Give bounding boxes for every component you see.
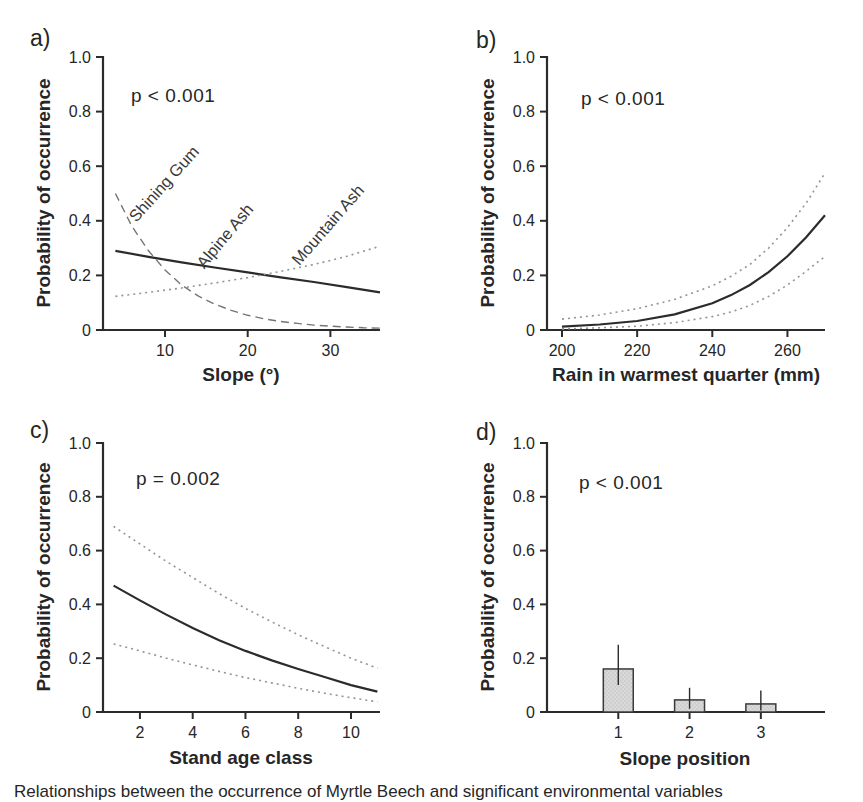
panel-d-letter: d) [476, 419, 496, 446]
y-tick-label: 0.2 [69, 267, 91, 284]
x-tick-label: 10 [342, 724, 360, 741]
y-tick-label: 0 [526, 322, 535, 339]
y-tick-label: 0.6 [513, 542, 535, 559]
x-tick-label: 6 [241, 724, 250, 741]
y-tick-label: 1.0 [69, 49, 91, 66]
panel-b-pvalue: p < 0.001 [581, 88, 665, 110]
y-tick-label: 1.0 [513, 435, 535, 452]
y-tick-label: 0.6 [513, 158, 535, 175]
y-tick-label: 0.8 [513, 488, 535, 505]
series-curve-alpine-ash [115, 251, 380, 292]
y-tick-label: 0.4 [69, 596, 91, 613]
x-tick-label: 220 [624, 342, 651, 359]
series-curve-fitted [562, 215, 825, 326]
panel-a-xlabel: Slope (°) [202, 364, 279, 386]
panel-c-letter: c) [30, 417, 49, 444]
y-tick-label: 0.4 [513, 596, 535, 613]
y-tick-label: 0.2 [513, 650, 535, 667]
series-curve-upper-95-ci [114, 526, 378, 668]
y-tick-label: 1.0 [513, 49, 535, 66]
x-tick-label: 240 [699, 342, 726, 359]
x-tick-label: 2 [685, 724, 694, 741]
x-tick-label: 10 [156, 342, 174, 359]
y-tick-label: 0.8 [513, 103, 535, 120]
figure-caption-partial: Relationships between the occurrence of … [14, 782, 723, 802]
x-tick-label: 3 [756, 724, 765, 741]
panel-b-xlabel: Rain in warmest quarter (mm) [552, 364, 820, 386]
panel-d-xlabel: Slope position [620, 748, 751, 770]
y-tick-label: 0 [526, 704, 535, 721]
y-tick-label: 1.0 [69, 435, 91, 452]
panel-d-plot: 00.20.40.60.81.0123 [513, 435, 825, 742]
panel-c-xlabel: Stand age class [169, 747, 313, 769]
panel-d-pvalue: p < 0.001 [579, 472, 663, 494]
y-tick-label: 0.4 [513, 212, 535, 229]
y-tick-label: 0.8 [69, 103, 91, 120]
panel-c-pvalue: p = 0.002 [136, 468, 220, 490]
y-tick-label: 0.2 [69, 650, 91, 667]
x-tick-label: 30 [321, 342, 339, 359]
series-curve-lower-95-ci [562, 256, 825, 329]
panel-a-ylabel: Probability of occurrence [33, 78, 55, 307]
x-tick-label: 200 [549, 342, 576, 359]
x-tick-label: 260 [774, 342, 801, 359]
y-tick-label: 0.6 [69, 158, 91, 175]
panel-b-ylabel: Probability of occurrence [477, 78, 499, 307]
panel-a-pvalue: p < 0.001 [131, 85, 215, 107]
panel-a-letter: a) [30, 25, 50, 52]
y-tick-label: 0.8 [69, 488, 91, 505]
panel-b-letter: b) [476, 27, 496, 54]
panel-c-ylabel: Probability of occurrence [33, 462, 55, 691]
panel-d-ylabel: Probability of occurrence [477, 462, 499, 691]
x-tick-label: 2 [135, 724, 144, 741]
series-curve-upper-95-ci [562, 173, 825, 319]
series-curve-fitted [114, 586, 378, 692]
y-tick-label: 0.6 [69, 542, 91, 559]
series-curve-lower-95-ci [114, 644, 378, 702]
x-tick-label: 1 [614, 724, 623, 741]
x-tick-label: 4 [188, 724, 197, 741]
y-tick-label: 0 [82, 322, 91, 339]
panel-c-plot: 00.20.40.60.81.0246810 [69, 435, 380, 742]
y-tick-label: 0.2 [513, 267, 535, 284]
x-tick-label: 8 [294, 724, 303, 741]
y-tick-label: 0 [82, 704, 91, 721]
y-tick-label: 0.4 [69, 212, 91, 229]
x-tick-label: 20 [239, 342, 257, 359]
panel-b-plot: 00.20.40.60.81.0200220240260 [513, 49, 825, 360]
